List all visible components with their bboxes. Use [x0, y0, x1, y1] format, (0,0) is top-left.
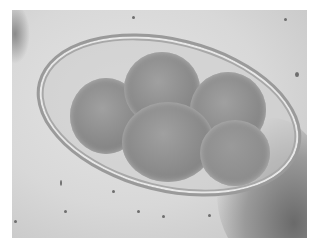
- debris-particle: [112, 190, 115, 193]
- embryo-cell: [122, 102, 214, 182]
- debris-particle: [284, 18, 287, 21]
- embryo-cell: [200, 120, 270, 186]
- dark-edge-top-left: [12, 10, 30, 64]
- debris-particle: [64, 210, 67, 213]
- debris-particle: [162, 215, 165, 218]
- debris-particle: [208, 214, 211, 217]
- debris-particle: [14, 220, 17, 223]
- debris-particle: [132, 16, 135, 19]
- debris-particle: [137, 210, 140, 213]
- debris-particle: [295, 72, 299, 77]
- micrograph: [12, 10, 307, 238]
- debris-particle: [60, 180, 62, 186]
